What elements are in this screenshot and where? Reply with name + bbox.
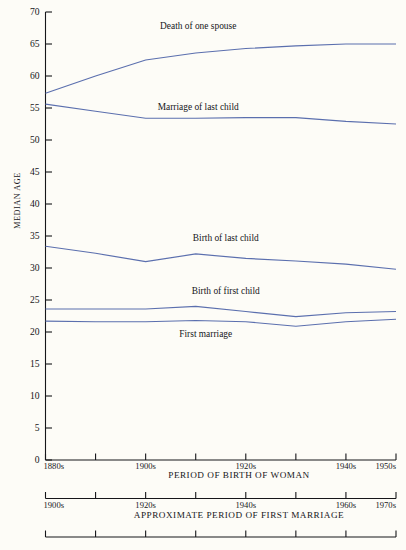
y-tick-label: 65: [14, 39, 40, 49]
primary-x-tick-label: 1900s: [135, 461, 156, 471]
secondary-x-tick-label: 1960s: [336, 500, 357, 510]
y-tick-label: 70: [14, 7, 40, 17]
secondary-x-tick-label: 1970s: [375, 500, 396, 510]
tertiary-x-axis: [46, 531, 397, 538]
series-line-death-of-one-spouse: [46, 44, 397, 93]
primary-x-axis-caption: PERIOD OF BIRTH OF WOMAN: [0, 470, 406, 480]
y-tick-label: 0: [14, 455, 40, 465]
primary-x-tick-label: 1940s: [336, 461, 357, 471]
secondary-x-tick-label: 1940s: [236, 500, 257, 510]
secondary-x-axis-caption: APPROXIMATE PERIOD OF FIRST MARRIAGE: [0, 510, 406, 520]
series-label-first-marriage: First marriage: [179, 329, 232, 339]
y-tick-label: 30: [14, 263, 40, 273]
y-tick-label: 10: [14, 391, 40, 401]
series-label-birth-of-first-child: Birth of first child: [192, 286, 260, 296]
y-tick-label: 45: [14, 167, 40, 177]
series-line-birth-of-first-child: [46, 306, 397, 316]
y-tick-label: 35: [14, 231, 40, 241]
y-axis: [46, 12, 53, 460]
secondary-x-tick-label: 1900s: [44, 500, 65, 510]
chart-figure: MEDIAN AGE PERIOD OF BIRTH OF WOMAN APPR…: [0, 0, 406, 550]
y-tick-label: 40: [14, 199, 40, 209]
primary-x-tick-label: 1920s: [236, 461, 257, 471]
y-tick-label: 15: [14, 359, 40, 369]
series-line-first-marriage: [46, 319, 397, 326]
series-label-birth-of-last-child: Birth of last child: [193, 233, 259, 243]
y-tick-label: 25: [14, 295, 40, 305]
series-label-marriage-of-last-child: Marriage of last child: [158, 102, 239, 112]
y-tick-label: 5: [14, 423, 40, 433]
series-label-death-of-one-spouse: Death of one spouse: [160, 21, 236, 31]
y-tick-label: 50: [14, 135, 40, 145]
primary-x-axis: [46, 454, 397, 461]
secondary-x-tick-label: 1920s: [135, 500, 156, 510]
primary-x-tick-label: 1950s: [375, 461, 396, 471]
y-tick-label: 60: [14, 71, 40, 81]
primary-x-tick-label: 1880s: [44, 461, 65, 471]
y-tick-label: 20: [14, 327, 40, 337]
secondary-x-axis: [46, 492, 397, 499]
y-tick-label: 55: [14, 103, 40, 113]
series-line-birth-of-last-child: [46, 246, 397, 269]
